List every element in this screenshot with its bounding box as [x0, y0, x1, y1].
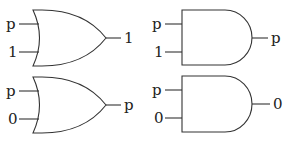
input-label-2: 1 [154, 43, 164, 61]
input-label-1: p [152, 15, 162, 33]
logic-gates-diagram: p 1 1 p 1 p p 0 p p 0 0 [0, 0, 283, 144]
output-label: 1 [124, 29, 134, 47]
or-gate-shape [33, 10, 106, 66]
input-label-2: 1 [8, 43, 18, 61]
and-gate-top: p 1 p [152, 10, 281, 65]
and-gate-bottom: p 0 0 [152, 76, 283, 132]
input-label-1: p [6, 82, 16, 100]
or-gate-top: p 1 1 [6, 10, 134, 66]
output-label: 0 [273, 95, 283, 113]
output-label: p [271, 29, 281, 47]
input-label-2: 0 [154, 109, 164, 127]
or-gate-bottom: p 0 p [6, 77, 134, 133]
and-gate-shape [182, 76, 252, 132]
and-gate-shape [182, 10, 252, 65]
output-label: p [124, 96, 134, 114]
input-label-1: p [6, 15, 16, 33]
or-gate-shape [33, 77, 106, 133]
input-label-2: 0 [8, 110, 18, 128]
input-label-1: p [152, 81, 162, 99]
